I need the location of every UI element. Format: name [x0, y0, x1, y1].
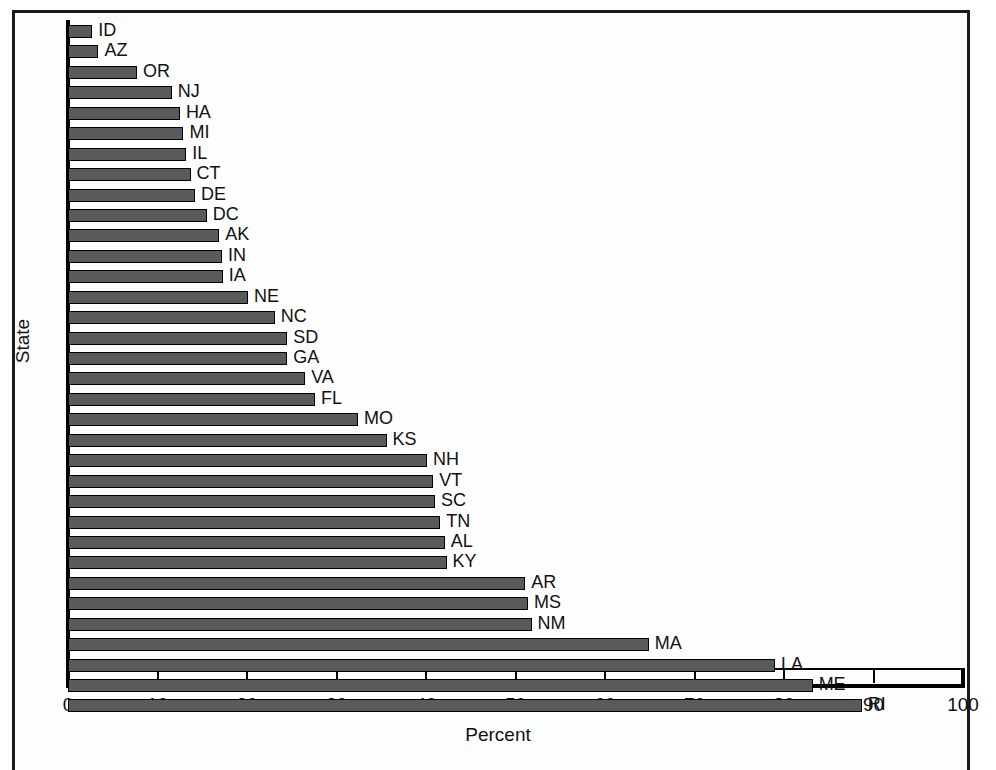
bar-category-label: NH [433, 450, 459, 468]
bar[interactable] [68, 25, 92, 38]
bar-row[interactable]: DE [68, 186, 968, 206]
bar-row[interactable]: KY [68, 553, 968, 573]
bar-row[interactable]: AZ [68, 42, 968, 62]
bar-category-label: MA [655, 634, 682, 652]
bar[interactable] [68, 311, 275, 324]
bar-category-label: SC [441, 491, 466, 509]
bar[interactable] [68, 291, 248, 304]
bar[interactable] [68, 45, 98, 58]
bar[interactable] [68, 229, 219, 242]
bar[interactable] [68, 577, 525, 590]
bar-row[interactable]: NJ [68, 83, 968, 103]
bar-row[interactable]: AR [68, 574, 968, 594]
bar[interactable] [68, 699, 862, 712]
bar-category-label: VT [439, 471, 462, 489]
bar-row[interactable]: SD [68, 329, 968, 349]
bar-row[interactable]: NE [68, 288, 968, 308]
bar-category-label: CT [197, 164, 221, 182]
bar-row[interactable]: ME [68, 676, 968, 696]
bar-category-label: IL [192, 144, 207, 162]
bar-row[interactable]: FL [68, 390, 968, 410]
bar[interactable] [68, 556, 447, 569]
bar-row[interactable]: IN [68, 247, 968, 267]
bar[interactable] [68, 352, 287, 365]
bar-row[interactable]: AL [68, 533, 968, 553]
bar-category-label: AK [225, 225, 249, 243]
bar-row[interactable]: MA [68, 635, 968, 655]
bar[interactable] [68, 86, 172, 99]
bar-category-label: MS [534, 593, 561, 611]
bar-row[interactable]: NC [68, 308, 968, 328]
bar[interactable] [68, 638, 649, 651]
bar[interactable] [68, 413, 358, 426]
bar[interactable] [68, 107, 180, 120]
bar-category-label: AR [531, 573, 556, 591]
bar-category-label: NE [254, 287, 279, 305]
bar-row[interactable]: MS [68, 594, 968, 614]
bar[interactable] [68, 127, 183, 140]
bar-category-label: LA [781, 655, 803, 673]
bar[interactable] [68, 618, 532, 631]
bar-category-label: NC [281, 307, 307, 325]
bar-row[interactable]: AK [68, 226, 968, 246]
bar[interactable] [68, 434, 387, 447]
bar[interactable] [68, 475, 433, 488]
bar[interactable] [68, 454, 427, 467]
bar-row[interactable]: TN [68, 513, 968, 533]
bar-category-label: IN [228, 246, 246, 264]
bar[interactable] [68, 332, 287, 345]
bar-row[interactable]: LA [68, 656, 968, 676]
bar-series: IDAZORNJHAMIILCTDEDCAKINIANENCSDGAVAFLMO… [68, 22, 968, 717]
bar-category-label: ME [819, 675, 846, 693]
bar[interactable] [68, 270, 223, 283]
bar-category-label: TN [446, 512, 470, 530]
bar-category-label: DE [201, 185, 226, 203]
bar-row[interactable]: KS [68, 431, 968, 451]
bar-row[interactable]: SC [68, 492, 968, 512]
bar-row[interactable]: RI [68, 696, 968, 716]
bar-row[interactable]: CT [68, 165, 968, 185]
bar-row[interactable]: NM [68, 615, 968, 635]
bar-category-label: NM [538, 614, 566, 632]
bar[interactable] [68, 148, 186, 161]
bar-category-label: MO [364, 409, 393, 427]
bar[interactable] [68, 495, 435, 508]
bar-category-label: RI [868, 695, 886, 713]
bar[interactable] [68, 372, 305, 385]
bar-category-label: KY [453, 552, 477, 570]
bar-category-label: AL [451, 532, 473, 550]
bar[interactable] [68, 679, 813, 692]
bar-row[interactable]: ID [68, 22, 968, 42]
bar[interactable] [68, 250, 222, 263]
bar-row[interactable]: HA [68, 104, 968, 124]
bar-row[interactable]: GA [68, 349, 968, 369]
bar[interactable] [68, 66, 137, 79]
bar-row[interactable]: DC [68, 206, 968, 226]
bar[interactable] [68, 393, 315, 406]
bar-category-label: DC [213, 205, 239, 223]
y-axis-title: State [12, 291, 34, 391]
bar-category-label: KS [393, 430, 417, 448]
bar[interactable] [68, 189, 195, 202]
bar-row[interactable]: MI [68, 124, 968, 144]
bar-category-label: VA [311, 368, 334, 386]
bar[interactable] [68, 516, 440, 529]
bar-row[interactable]: VT [68, 472, 968, 492]
bar-category-label: NJ [178, 82, 200, 100]
bar[interactable] [68, 597, 528, 610]
bar-row[interactable]: VA [68, 369, 968, 389]
bar[interactable] [68, 659, 775, 672]
bar[interactable] [68, 209, 207, 222]
bar-row[interactable]: IL [68, 145, 968, 165]
bar-category-label: SD [293, 328, 318, 346]
bar-row[interactable]: IA [68, 267, 968, 287]
bar-row[interactable]: MO [68, 410, 968, 430]
bar-category-label: IA [229, 266, 246, 284]
bar[interactable] [68, 168, 191, 181]
bar-row[interactable]: OR [68, 63, 968, 83]
bar[interactable] [68, 536, 445, 549]
bar-category-label: MI [189, 123, 209, 141]
bar-row[interactable]: NH [68, 451, 968, 471]
